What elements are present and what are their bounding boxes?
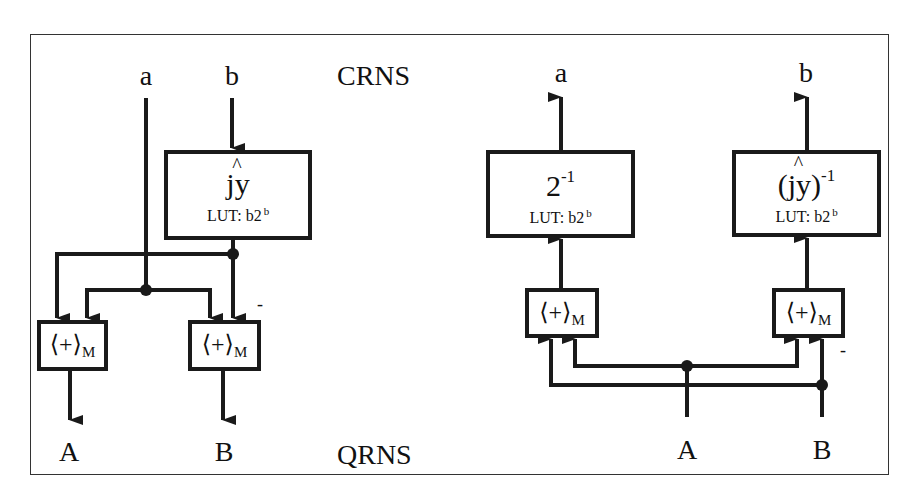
lut-two-inverse-box: 2-1 LUT: b2b — [486, 150, 635, 238]
region-label-qrns: QRNS — [337, 441, 412, 469]
output-label-b: b — [799, 59, 813, 87]
junction-dot — [816, 379, 828, 391]
modular-adder-4: ⟨+⟩M — [772, 288, 845, 338]
wire-A-to-adder1 — [575, 339, 687, 366]
output-label-B: B — [215, 438, 234, 466]
negation-sign: - — [840, 340, 846, 361]
hat-symbol: ^ — [232, 155, 241, 175]
junction-dot — [227, 248, 239, 260]
wire-a-to-adder2 — [146, 290, 210, 318]
negation-sign: - — [257, 294, 263, 315]
input-label-A: A — [677, 436, 697, 464]
lut-jy-inverse-box: ^ (jy)-1 LUT: b2b — [732, 150, 881, 237]
region-label-crns: CRNS — [337, 62, 410, 90]
lut-table-label: LUT: b2b — [529, 207, 591, 227]
input-label-b: b — [225, 62, 239, 90]
output-label-a: a — [555, 59, 567, 87]
input-label-a: a — [140, 62, 152, 90]
hat-symbol: ^ — [794, 153, 803, 173]
lut-table-label: LUT: b2b — [775, 206, 837, 226]
lut-function: 2 — [546, 169, 561, 202]
lut-jy-box: ^ jy LUT: b2b — [164, 150, 312, 240]
junction-dot — [681, 360, 693, 372]
output-label-A: A — [59, 438, 79, 466]
wire-a-to-adder1 — [87, 290, 146, 318]
modular-adder-1: ⟨+⟩M — [37, 320, 108, 371]
wire-A-to-adder2 — [687, 339, 797, 366]
modular-adder-2: ⟨+⟩M — [188, 320, 261, 371]
input-label-B: B — [813, 436, 832, 464]
lut-table-label: LUT: b2b — [207, 205, 269, 225]
modular-adder-3: ⟨+⟩M — [525, 288, 599, 338]
wiring-diagram — [0, 0, 915, 499]
junction-dot — [140, 284, 152, 296]
